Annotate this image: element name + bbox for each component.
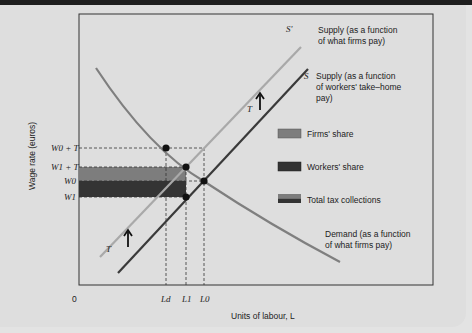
tax-incidence-chart: S' S T T Supply (as a function of what f…: [0, 0, 472, 333]
legend-firms-share: Firms' share: [307, 129, 354, 139]
arrow-up-icon: [124, 230, 132, 247]
supply-curve-s-prime: [100, 47, 301, 257]
x-axis-label: Units of labour, L: [231, 311, 295, 321]
origin-label: 0: [72, 294, 77, 304]
legend-total-tax: Total tax collections: [307, 195, 381, 205]
s-prime-description: of what firms pay): [318, 36, 385, 46]
s-description: pay): [316, 93, 333, 103]
s-prime-description: Supply (as a function: [318, 25, 398, 35]
s-label: S: [304, 71, 309, 81]
demand-description: of what firms pay): [325, 240, 392, 250]
demand-description: Demand (as a function: [325, 229, 411, 239]
t-upper-label: T: [247, 104, 253, 114]
s-prime-label: S': [286, 24, 294, 34]
y-tick-w0: W0: [64, 176, 76, 186]
legend-workers-share: Workers' share: [307, 162, 364, 172]
y-axis-label: Wage rate (euros): [27, 122, 37, 190]
y-tick-w1-plus-t: W1 + T: [51, 162, 80, 172]
y-tick-w1: W1: [64, 192, 76, 202]
s-description: Supply (as a function: [316, 71, 396, 81]
y-tick-w0-plus-t: W0 + T: [51, 143, 80, 153]
s-description: of workers' take–home: [316, 82, 402, 92]
legend: Firms' share Workers' share Total tax co…: [278, 129, 381, 205]
x-tick-l1: L1: [181, 294, 192, 304]
firms-share-area: [79, 167, 186, 181]
x-tick-l0: L0: [199, 294, 210, 304]
x-tick-ld: Ld: [160, 294, 171, 304]
arrow-up-icon: [256, 93, 264, 110]
